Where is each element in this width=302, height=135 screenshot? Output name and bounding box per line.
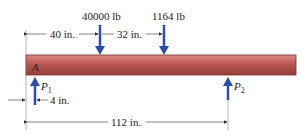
point-a-label: A xyxy=(31,61,39,73)
reaction-arrow-p1 xyxy=(30,77,40,105)
load-arrow-1164 xyxy=(159,25,169,55)
reaction-label-p2: P2 xyxy=(233,80,245,95)
dimension-label-112in: 112 in. xyxy=(111,116,141,128)
load-arrow-40000 xyxy=(95,25,105,55)
beam xyxy=(26,55,296,75)
beam-diagram: A 40000 lb 1164 lb 40 in. 32 in. P1 4 in… xyxy=(0,0,302,135)
dimension-label-4in: 4 in. xyxy=(50,94,70,106)
load-label-40000: 40000 lb xyxy=(82,10,121,22)
dimension-label-32in: 32 in. xyxy=(117,28,142,40)
load-label-1164: 1164 lb xyxy=(152,10,185,22)
dimension-label-40in: 40 in. xyxy=(50,28,75,40)
reaction-label-p1: P1 xyxy=(40,80,52,95)
